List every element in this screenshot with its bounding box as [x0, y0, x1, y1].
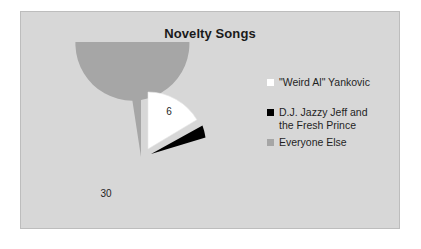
legend-swatch-everyone-else	[267, 139, 274, 146]
legend-swatch-dj-jazzy-jeff	[267, 109, 274, 116]
pie-value-label-everyone-else: 30	[100, 188, 112, 199]
chart-title: Novelty Songs	[21, 26, 399, 41]
legend-swatch-weird-al	[267, 79, 274, 86]
legend-label-dj-jazzy-jeff: D.J. Jazzy Jeff and the Fresh Prince	[279, 106, 368, 132]
legend-label-everyone-else: Everyone Else	[279, 136, 347, 149]
legend-item-everyone-else[interactable]: Everyone Else	[267, 136, 401, 149]
pie-value-label-weird-al: 6	[166, 106, 172, 117]
legend-item-weird-al[interactable]: "Weird Al" Yankovic	[267, 76, 401, 89]
chart-panel: Novelty Songs 6 30 "Weird Al" Yankovic D…	[20, 11, 400, 229]
legend-label-weird-al: "Weird Al" Yankovic	[279, 76, 370, 89]
pie-svg: 6 30	[21, 42, 271, 230]
chart-legend: "Weird Al" Yankovic D.J. Jazzy Jeff and …	[267, 76, 401, 166]
legend-item-dj-jazzy-jeff[interactable]: D.J. Jazzy Jeff and the Fresh Prince	[267, 106, 401, 132]
pie-chart: 6 30	[21, 42, 271, 230]
